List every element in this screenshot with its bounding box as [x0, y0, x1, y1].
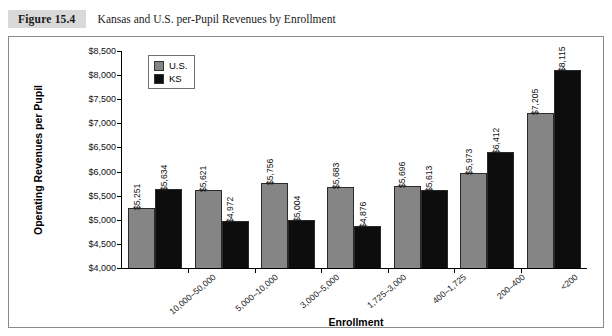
bar-value-label: $7,205: [530, 89, 540, 115]
bar-us[interactable]: $5,756: [261, 183, 288, 268]
x-axis-category: <200: [520, 269, 587, 319]
bar-us[interactable]: $5,683: [327, 187, 354, 268]
x-axis-category: 1,725–3,000: [321, 269, 388, 319]
x-axis-category: 5,000–10,000: [188, 269, 255, 319]
bar-us[interactable]: $5,973: [460, 173, 487, 268]
x-axis-category: 10,000–50,000: [121, 269, 188, 319]
bar-value-label: $5,973: [464, 149, 474, 175]
chart-legend: U.S. KS: [148, 55, 195, 89]
plot-area: U.S. KS $8,500$8,000$7,500$7,000$6,500$6…: [121, 51, 587, 269]
legend-item-us[interactable]: U.S.: [154, 59, 187, 72]
bar-us[interactable]: $5,251: [128, 208, 155, 268]
bar-value-label: $5,004: [292, 195, 302, 221]
bar-ks[interactable]: $4,876: [354, 226, 381, 268]
bar-value-label: $6,412: [491, 127, 501, 153]
bar-group: $5,973$6,412: [454, 51, 520, 268]
bar-ks[interactable]: $4,972: [222, 221, 249, 268]
figure-number-tag: Figure 15.4: [8, 10, 86, 28]
bar-value-label: $5,613: [424, 166, 434, 192]
legend-item-ks[interactable]: KS: [154, 72, 187, 85]
bar-group: $5,621$4,972: [188, 51, 254, 268]
x-axis-title-text: Enrollment: [329, 316, 384, 328]
chart-frame: Operating Revenues per Pupil U.S. KS $8,…: [8, 36, 604, 328]
legend-label-us: U.S.: [169, 60, 187, 71]
x-axis-category: 400–1,725: [387, 269, 454, 319]
bar-value-label: $4,876: [358, 201, 368, 227]
bar-group: $7,205$8,115: [521, 51, 587, 268]
bar-value-label: $5,621: [198, 166, 208, 192]
bar-group: $5,696$5,613: [388, 51, 454, 268]
x-axis-category-label: <200: [558, 272, 579, 292]
bar-us[interactable]: $7,205: [527, 113, 554, 268]
bar-value-label: $5,683: [331, 163, 341, 189]
bar-ks[interactable]: $5,613: [421, 190, 448, 268]
legend-swatch-ks-icon: [154, 74, 164, 84]
figure-caption: Figure 15.4 Kansas and U.S. per-Pupil Re…: [0, 9, 612, 29]
y-axis-title: Operating Revenues per Pupil: [31, 51, 45, 269]
figure-page: Figure 15.4 Kansas and U.S. per-Pupil Re…: [0, 0, 612, 336]
bar-value-label: $4,972: [225, 197, 235, 223]
bar-value-label: $5,634: [159, 165, 169, 191]
legend-label-ks: KS: [169, 73, 182, 84]
bar-group: $5,756$5,004: [255, 51, 321, 268]
figure-title: Kansas and U.S. per-Pupil Revenues by En…: [98, 13, 336, 25]
bar-us[interactable]: $5,621: [195, 190, 222, 268]
bar-ks[interactable]: $6,412: [487, 152, 514, 268]
x-axis-category: 3,000–5,000: [254, 269, 321, 319]
bar-value-label: $5,696: [397, 162, 407, 188]
bar-ks[interactable]: $5,004: [288, 220, 315, 268]
x-axis-category: 200–400: [454, 269, 521, 319]
x-axis-category-labels: 10,000–50,0005,000–10,0003,000–5,0001,72…: [121, 269, 587, 319]
bar-value-label: $5,756: [265, 159, 275, 185]
bar-group: $5,683$4,876: [321, 51, 387, 268]
legend-swatch-us-icon: [154, 61, 164, 71]
bar-us[interactable]: $5,696: [394, 186, 421, 268]
bar-ks[interactable]: $8,115: [554, 70, 581, 268]
bar-value-label: $5,251: [132, 183, 142, 209]
bar-ks[interactable]: $5,634: [155, 189, 182, 268]
bar-value-label: $8,115: [557, 46, 567, 72]
x-axis-title: Enrollment: [0, 316, 612, 328]
